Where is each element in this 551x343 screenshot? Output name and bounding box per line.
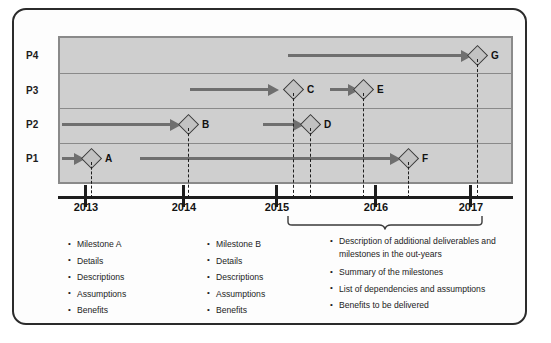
axis-tick-label-2015: 2015 <box>257 201 297 213</box>
lane-label-p1: P1 <box>26 153 54 164</box>
detail-item: List of dependencies and assumptions <box>330 281 519 298</box>
arrow-head-p3-c <box>268 84 279 96</box>
lane-divider-p2-p1 <box>60 143 511 144</box>
milestone-label-f: F <box>422 153 428 164</box>
arrow-shaft-p2-b <box>62 123 170 126</box>
axis-tick-label-2014: 2014 <box>164 201 204 213</box>
dropline-milestone-d <box>310 128 311 198</box>
dropline-milestone-f <box>408 162 409 198</box>
detail-item: Benefits <box>207 302 265 319</box>
lane-divider-p3-p2 <box>60 108 511 109</box>
lane-label-p3: P3 <box>26 85 54 96</box>
dropline-milestone-b <box>188 128 189 198</box>
detail-item: Assumptions <box>68 286 126 303</box>
arrow-shaft-p4-g <box>288 54 461 57</box>
detail-item: Milestone B <box>207 236 265 253</box>
lane-label-p2: P2 <box>26 119 54 130</box>
detail-column-milestone-a: Milestone A Details Descriptions Assumpt… <box>68 236 126 319</box>
lane-label-p4: P4 <box>26 50 54 61</box>
lane-divider-p4-p3 <box>60 73 511 74</box>
detail-item: Descriptions <box>68 269 126 286</box>
axis-tick-label-2017: 2017 <box>451 201 491 213</box>
figure-root: P4 P3 P2 P1 G C E B D A F <box>0 0 551 343</box>
detail-column-milestone-b: Milestone B Details Descriptions Assumpt… <box>207 236 265 319</box>
milestone-label-c: C <box>307 84 314 95</box>
arrow-shaft-p1-a <box>62 157 74 160</box>
milestone-label-d: D <box>324 119 331 130</box>
axis-tick-label-2013: 2013 <box>66 201 106 213</box>
timeline-axis <box>58 196 513 199</box>
detail-item: Details <box>68 253 126 270</box>
detail-column-out-years: Description of additional deliverables a… <box>330 235 519 314</box>
milestone-label-e: E <box>377 84 384 95</box>
detail-item: Summary of the milestones <box>330 264 519 281</box>
milestone-label-b: B <box>202 119 209 130</box>
figure-caption <box>0 334 551 343</box>
detail-item: Milestone A <box>68 236 126 253</box>
arrow-shaft-p3-e <box>330 88 348 91</box>
out-years-brace <box>286 216 484 230</box>
detail-item: Descriptions <box>207 269 265 286</box>
dropline-milestone-c <box>293 93 294 198</box>
detail-item: Benefits to be delivered <box>330 297 519 314</box>
detail-item: Description of additional deliverables a… <box>330 235 519 260</box>
brace-icon <box>286 216 484 230</box>
detail-item: Details <box>207 253 265 270</box>
timeline-plot-area <box>58 36 513 184</box>
dropline-milestone-g <box>477 59 478 198</box>
axis-tick-label-2016: 2016 <box>356 201 396 213</box>
arrow-shaft-p2-d <box>263 123 293 126</box>
dropline-milestone-a <box>91 162 92 198</box>
dropline-milestone-e <box>363 93 364 198</box>
arrow-shaft-p1-f <box>140 157 390 160</box>
milestone-label-g: G <box>491 50 499 61</box>
detail-item: Assumptions <box>207 286 265 303</box>
detail-item: Benefits <box>68 302 126 319</box>
arrow-shaft-p3-c <box>190 88 268 91</box>
milestone-label-a: A <box>105 153 112 164</box>
